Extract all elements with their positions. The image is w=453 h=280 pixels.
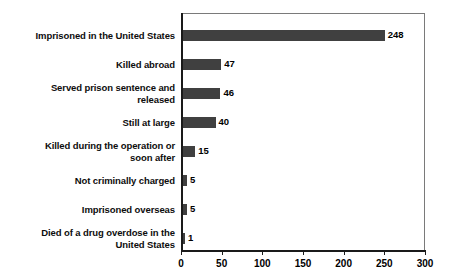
- x-axis-tick-label: 300: [417, 258, 434, 269]
- x-axis-tick: [181, 250, 182, 255]
- bar-row: Killed abroad47: [0, 50, 453, 79]
- category-label: Still at large: [0, 108, 175, 137]
- category-label: Imprisoned in the United States: [0, 21, 175, 50]
- category-label-line: released: [137, 94, 175, 106]
- x-axis-tick-label: 0: [178, 258, 184, 269]
- x-axis-tick: [344, 250, 345, 255]
- category-label-line: United States: [116, 239, 175, 251]
- category-label-line: Not criminally charged: [75, 175, 175, 187]
- bar-value-label: 40: [219, 116, 230, 128]
- x-axis-tick-label: 100: [254, 258, 271, 269]
- category-label: Died of a drug overdose in theUnited Sta…: [0, 224, 175, 253]
- bar: [183, 233, 185, 244]
- bar-rows: Imprisoned in the United States248Killed…: [0, 13, 453, 251]
- category-label: Imprisoned overseas: [0, 195, 175, 224]
- bar-value-label: 1: [188, 232, 193, 244]
- bar: [183, 175, 187, 186]
- category-label-line: Died of a drug overdose in the: [41, 227, 175, 239]
- category-label: Not criminally charged: [0, 166, 175, 195]
- x-axis-tick: [384, 250, 385, 255]
- bar: [183, 146, 195, 157]
- bar-row: Died of a drug overdose in theUnited Sta…: [0, 224, 453, 253]
- category-label-line: Imprisoned in the United States: [36, 30, 175, 42]
- bar-chart: Imprisoned in the United States248Killed…: [0, 0, 453, 280]
- x-axis-tick: [425, 250, 426, 255]
- bar-value-label: 47: [224, 58, 235, 70]
- bar: [183, 117, 216, 128]
- bar: [183, 88, 220, 99]
- bar-row: Imprisoned in the United States248: [0, 21, 453, 50]
- category-label-line: Killed during the operation or: [45, 140, 175, 152]
- bar-value-label: 46: [223, 87, 234, 99]
- x-axis-tick-label: 250: [376, 258, 393, 269]
- bar-value-label: 248: [388, 29, 404, 41]
- category-label-line: Served prison sentence and: [51, 82, 175, 94]
- bar-row: Killed during the operation orsoon after…: [0, 137, 453, 166]
- category-label: Killed abroad: [0, 50, 175, 79]
- category-label-line: Still at large: [123, 117, 175, 129]
- bar-row: Not criminally charged5: [0, 166, 453, 195]
- x-axis-tick: [262, 250, 263, 255]
- x-axis-tick-label: 200: [335, 258, 352, 269]
- bar: [183, 204, 187, 215]
- category-label: Killed during the operation orsoon after: [0, 137, 175, 166]
- bar-value-label: 5: [190, 174, 195, 186]
- bar-value-label: 5: [190, 203, 195, 215]
- category-label-line: Killed abroad: [116, 59, 175, 71]
- bar-row: Imprisoned overseas5: [0, 195, 453, 224]
- bar: [183, 59, 221, 70]
- bar: [183, 30, 385, 41]
- category-label-line: soon after: [130, 152, 175, 164]
- x-axis-tick-label: 50: [216, 258, 227, 269]
- category-label-line: Imprisoned overseas: [82, 204, 175, 216]
- bar-value-label: 15: [198, 145, 209, 157]
- bar-row: Served prison sentence andreleased46: [0, 79, 453, 108]
- category-label: Served prison sentence andreleased: [0, 79, 175, 108]
- bar-row: Still at large40: [0, 108, 453, 137]
- x-axis-tick: [303, 250, 304, 255]
- x-axis-tick-label: 150: [295, 258, 312, 269]
- x-axis-tick: [222, 250, 223, 255]
